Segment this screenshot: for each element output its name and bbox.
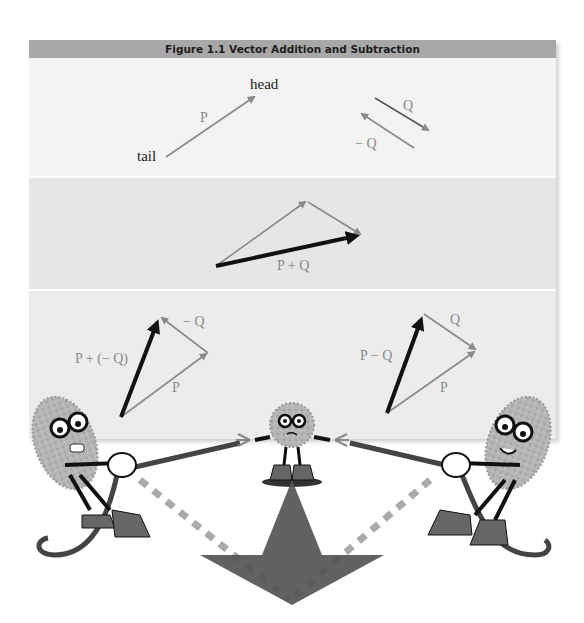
resultant-down-arrow [200, 477, 384, 605]
vector-p [166, 97, 254, 157]
head-label: head [250, 76, 278, 93]
right-p-label: P [440, 380, 448, 396]
right-q-label: Q [450, 312, 460, 328]
left-p-label: P [172, 380, 180, 396]
vector-difference-left [121, 318, 208, 417]
vector-q-label: Q [403, 98, 413, 114]
center-referee-character [236, 403, 349, 480]
left-neg-q-label: − Q [183, 314, 205, 330]
vector-sum-triangle [216, 202, 360, 266]
vector-q [375, 98, 428, 130]
tail-label: tail [137, 148, 156, 165]
vector-diagram-layer [0, 0, 584, 623]
left-result-label: P + (− Q) [75, 351, 128, 367]
sum-label: P + Q [277, 258, 309, 274]
right-puller-character [428, 388, 563, 545]
vector-p-label: P [200, 110, 208, 126]
right-result-label: P − Q [360, 348, 392, 364]
vector-difference-right [387, 314, 475, 413]
vector-neg-q-label: − Q [355, 136, 377, 152]
